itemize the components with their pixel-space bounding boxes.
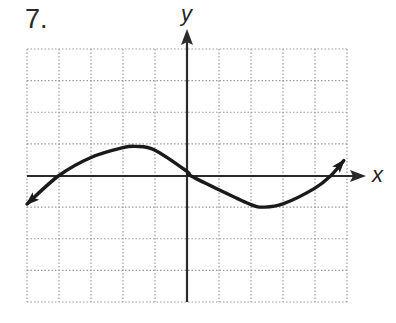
coordinate-graph	[0, 0, 396, 323]
y-axis	[181, 29, 193, 302]
